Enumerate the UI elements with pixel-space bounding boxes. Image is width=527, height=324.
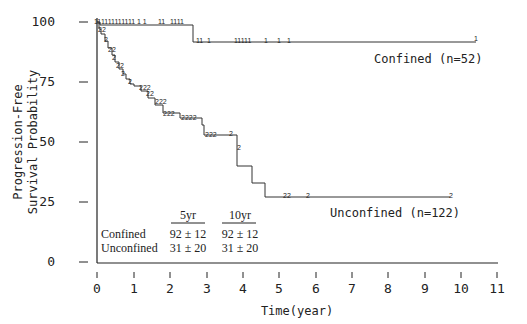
svg-text:2: 2 [166, 281, 174, 296]
svg-text:22: 22 [283, 192, 291, 199]
survival-inset-table: 5yr 10yr Confined 92 ± 12 92 ± 12 Unconf… [101, 208, 258, 255]
svg-text:2: 2 [449, 192, 453, 199]
table-header-10yr: 10yr [229, 208, 251, 222]
svg-text:2: 2 [121, 70, 125, 77]
svg-text:2222: 2222 [181, 114, 197, 121]
svg-text:7: 7 [348, 281, 356, 296]
confined-label: Confined (n=52) [374, 52, 482, 66]
y-tick-25: 25 [39, 194, 55, 209]
table-confined-5yr: 92 ± 12 [170, 227, 207, 241]
km-survival-chart: 100 75 50 25 0 Progression-Free Survival… [0, 0, 527, 324]
y-tick-marks [79, 22, 88, 262]
svg-text:1 1: 1 1 [137, 18, 147, 25]
svg-text:2: 2 [112, 54, 116, 61]
x-tick-labels: 0 1 2 3 4 5 6 7 8 9 10 11 [93, 281, 505, 296]
svg-text:222: 222 [205, 131, 217, 138]
svg-text:1111: 1111 [170, 18, 184, 25]
table-unconfined-5yr: 31 ± 20 [170, 241, 207, 255]
svg-text:Survival Probability: Survival Probability [26, 70, 40, 215]
svg-text:0: 0 [93, 281, 101, 296]
y-tick-100: 100 [32, 14, 55, 29]
svg-text:1111111111: 1111111111 [101, 18, 135, 25]
table-header-5yr: 5yr [180, 208, 196, 222]
y-tick-50: 50 [39, 134, 55, 149]
x-axis-title: Time(year) [261, 304, 333, 318]
svg-text:2: 2 [237, 144, 241, 151]
svg-text:11: 11 [158, 18, 165, 25]
svg-text:222: 222 [155, 98, 167, 105]
svg-text:2: 2 [128, 78, 132, 85]
svg-text:Progression-Free: Progression-Free [11, 84, 25, 200]
svg-text:11: 11 [489, 281, 505, 296]
svg-text:1: 1 [207, 37, 211, 44]
svg-text:2: 2 [104, 36, 108, 43]
table-row-unconfined-label: Unconfined [101, 241, 158, 255]
svg-text:1: 1 [264, 37, 268, 44]
svg-text:22: 22 [108, 46, 116, 53]
svg-text:4: 4 [239, 281, 247, 296]
svg-text:22: 22 [146, 90, 154, 97]
svg-text:2: 2 [306, 192, 310, 199]
y-axis-title: Progression-Free Survival Probability [11, 70, 40, 215]
svg-text:6: 6 [312, 281, 320, 296]
table-row-confined-label: Confined [101, 227, 146, 241]
svg-text:5: 5 [275, 281, 283, 296]
svg-text:11: 11 [196, 37, 203, 44]
x-tick-marks [97, 272, 497, 278]
svg-text:9: 9 [421, 281, 429, 296]
svg-text:1: 1 [287, 37, 291, 44]
y-tick-0: 0 [47, 254, 55, 269]
svg-text:8: 8 [384, 281, 392, 296]
svg-text:1: 1 [277, 37, 281, 44]
unconfined-label: Unconfined (n=122) [330, 206, 460, 220]
svg-text:1: 1 [130, 281, 138, 296]
table-unconfined-10yr: 31 ± 20 [222, 241, 259, 255]
table-confined-10yr: 92 ± 12 [222, 227, 259, 241]
svg-text:1: 1 [474, 35, 478, 42]
confined-censor-marks: 11 1111111111 1 1 11 1111 11 1 11111 1 1… [94, 18, 478, 44]
svg-text:22: 22 [98, 26, 106, 33]
y-tick-75: 75 [39, 74, 55, 89]
svg-text:222: 222 [163, 110, 175, 117]
svg-text:2: 2 [229, 130, 233, 137]
svg-text:10: 10 [453, 281, 469, 296]
svg-text:3: 3 [203, 281, 211, 296]
svg-text:22: 22 [116, 62, 124, 69]
svg-text:11111: 11111 [234, 37, 251, 44]
unconfined-curve [97, 22, 450, 197]
